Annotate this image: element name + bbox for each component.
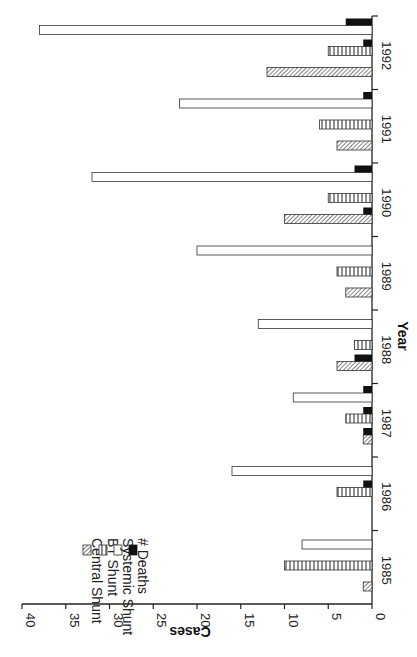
y-tick-label: 40 <box>23 613 38 627</box>
bar <box>285 561 373 570</box>
y-tick-label: 25 <box>154 613 169 627</box>
deaths-bar <box>363 481 372 488</box>
deaths-bar <box>363 208 372 215</box>
deaths-bar <box>363 386 372 393</box>
bar <box>92 173 372 182</box>
x-axis-title: Year <box>395 321 411 351</box>
y-tick-label: 0 <box>373 613 388 620</box>
x-tick-label: 1990 <box>379 188 394 217</box>
y-tick-label: 15 <box>242 613 257 627</box>
bar <box>363 582 372 591</box>
bar <box>232 467 372 476</box>
shunt-cases-chart: 19851986198719881989199019911992 0510152… <box>0 0 417 657</box>
y-tick-label: 5 <box>329 613 344 620</box>
y-axis-title: Cases <box>169 624 210 640</box>
cases-axis: 0510152025303540 <box>22 604 388 627</box>
bar <box>328 47 372 56</box>
bar <box>267 68 372 77</box>
bar <box>337 362 372 371</box>
x-tick-label: 1991 <box>379 115 394 144</box>
bar <box>346 414 372 423</box>
bar <box>337 488 372 497</box>
x-tick-label: 1989 <box>379 262 394 291</box>
y-tick-label: 10 <box>286 613 301 627</box>
y-tick-label: 35 <box>67 613 82 627</box>
deaths-bar <box>346 19 372 26</box>
bar <box>197 246 372 255</box>
bar <box>363 435 372 444</box>
x-tick-label: 1992 <box>379 41 394 70</box>
bar <box>285 215 373 224</box>
bar <box>180 99 373 108</box>
deaths-bar <box>355 166 373 173</box>
x-tick-label: 1988 <box>379 335 394 364</box>
bar <box>337 141 372 150</box>
deaths-bar <box>363 40 372 47</box>
bar <box>346 288 372 297</box>
bar <box>355 341 373 350</box>
bar <box>328 194 372 203</box>
bar <box>302 540 372 549</box>
bar <box>337 267 372 276</box>
bar <box>293 393 372 402</box>
year-axis: 19851986198719881989199019911992 <box>372 16 394 604</box>
deaths-bar <box>355 355 373 362</box>
x-tick-label: 1986 <box>379 482 394 511</box>
deaths-bar <box>363 407 372 414</box>
bar <box>258 320 372 329</box>
svg-text:# Deaths: # Deaths <box>135 538 151 594</box>
deaths-bar <box>363 92 372 99</box>
bar <box>320 120 373 129</box>
bars <box>40 19 373 592</box>
deaths-bar <box>363 428 372 435</box>
x-tick-label: 1985 <box>379 556 394 585</box>
bar <box>40 26 373 35</box>
x-tick-label: 1987 <box>379 409 394 438</box>
